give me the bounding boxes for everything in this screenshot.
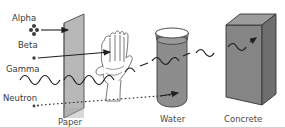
neutron-track — [33, 93, 178, 107]
label-water: Water — [160, 114, 186, 124]
hand-barrier — [96, 31, 132, 101]
concrete-barrier — [226, 13, 276, 105]
diagram-canvas: Alpha Beta Gamma Neutron Paper Water Con… — [0, 0, 285, 128]
alpha-track — [29, 24, 68, 36]
beta-particle-icon — [32, 56, 35, 59]
water-barrier — [156, 28, 189, 107]
label-beta: Beta — [18, 40, 38, 50]
alpha-particle-icon — [29, 24, 39, 36]
radiation-penetration-diagram: Alpha Beta Gamma Neutron Paper Water Con… — [0, 0, 285, 128]
label-gamma: Gamma — [6, 64, 40, 74]
label-concrete: Concrete — [224, 114, 262, 124]
label-paper: Paper — [58, 117, 83, 127]
neutron-particle-icon — [33, 104, 40, 107]
label-neutron: Neutron — [3, 93, 37, 103]
gamma-track — [20, 38, 256, 85]
label-alpha: Alpha — [12, 13, 36, 23]
